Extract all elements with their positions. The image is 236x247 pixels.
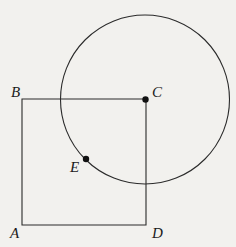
vertex-dot-e: [83, 156, 89, 162]
square-abcd: [22, 99, 146, 225]
vertex-label-c: C: [152, 85, 162, 100]
vertex-dot-c: [142, 96, 148, 102]
vertex-label-b: B: [11, 85, 20, 100]
vertex-label-d: D: [152, 226, 163, 241]
geometry-figure: B C E A D: [0, 0, 236, 247]
vertex-label-a: A: [10, 226, 19, 241]
geometry-canvas: [0, 0, 236, 247]
vertex-label-e: E: [70, 160, 79, 175]
